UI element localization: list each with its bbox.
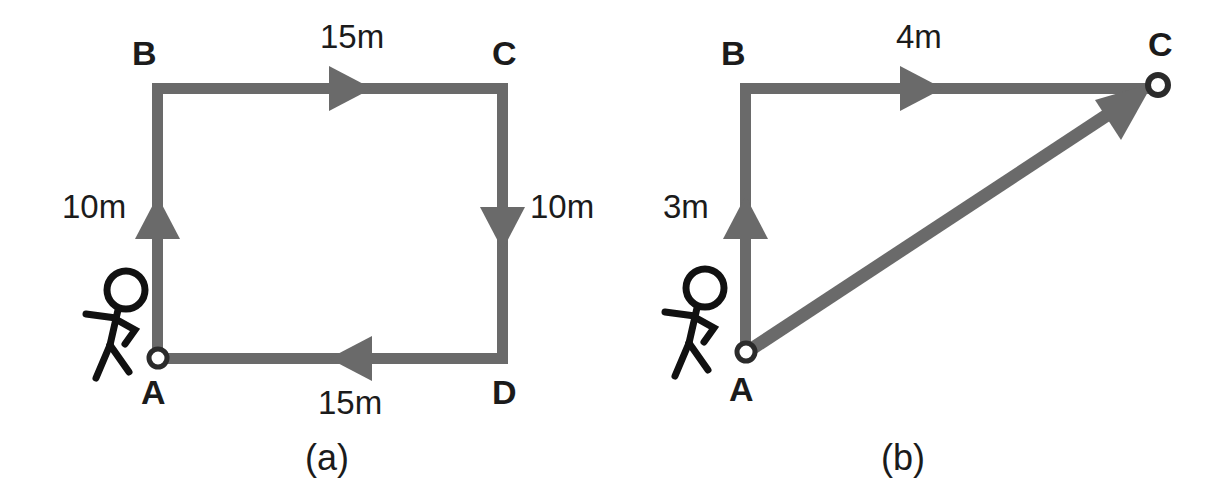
- distance-label-right: 10m: [530, 190, 594, 223]
- arrowhead-left-bottom: [329, 336, 372, 381]
- figure-root: B C A D 15m 15m 10m 10m (a): [0, 0, 1227, 502]
- segment-b-to-c: [740, 83, 1152, 94]
- point-label-b: B: [132, 36, 157, 70]
- point-label-c: C: [1148, 27, 1173, 61]
- panel-caption-a: (a): [305, 440, 349, 476]
- point-label-d: D: [492, 375, 517, 409]
- point-label-a: A: [141, 375, 166, 409]
- point-marker-a: [737, 343, 755, 361]
- panel-a-drawing: [0, 0, 614, 502]
- arrowhead-down-right: [480, 207, 525, 250]
- panel-a: B C A D 15m 15m 10m 10m (a): [0, 0, 614, 502]
- point-label-c: C: [492, 36, 517, 70]
- distance-label-left: 10m: [62, 190, 126, 223]
- arrowhead-up-left: [135, 196, 180, 239]
- path-triangle: [740, 83, 1152, 352]
- arrowhead-right-top: [900, 66, 943, 111]
- distance-label-top: 15m: [320, 20, 384, 53]
- stick-figure-walker: [665, 269, 724, 376]
- point-marker-a: [149, 349, 167, 367]
- distance-label-top: 4m: [896, 20, 942, 53]
- point-label-a: A: [729, 372, 754, 406]
- point-marker-c: [1148, 75, 1168, 95]
- panel-b-drawing: [613, 0, 1227, 502]
- distance-label-bottom: 15m: [318, 386, 382, 419]
- arrowhead-right-top: [329, 66, 372, 111]
- segment-a-to-c-resultant: [750, 98, 1133, 350]
- distance-label-left: 3m: [663, 190, 709, 223]
- panel-b: B C A 4m 3m (b): [613, 0, 1227, 502]
- stick-figure-walker: [86, 271, 145, 378]
- point-label-b: B: [721, 36, 746, 70]
- panel-caption-b: (b): [881, 440, 925, 476]
- path-rectangle: [152, 83, 508, 364]
- arrowhead-up-left: [723, 196, 768, 239]
